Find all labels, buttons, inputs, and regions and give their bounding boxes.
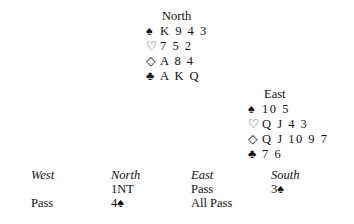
- east-spades: ♠10 5: [248, 102, 328, 117]
- north-clubs: ♣A K Q: [146, 69, 208, 84]
- bid: 3♠: [271, 182, 351, 196]
- north-hearts: ♡7 5 2: [146, 39, 208, 54]
- north-diamonds-cards: A 8 4: [160, 54, 195, 68]
- header-south: South: [271, 168, 351, 182]
- north-spades: ♠K 9 4 3: [146, 24, 208, 39]
- club-icon: ♣: [146, 69, 160, 84]
- header-north: North: [111, 168, 191, 182]
- east-clubs: ♣7 6: [248, 147, 328, 162]
- auction-row: 1NT Pass 3♠: [31, 182, 351, 196]
- bid: All Pass: [191, 196, 271, 210]
- spade-icon: ♠: [146, 24, 160, 39]
- east-diamonds: ◇Q J 10 9 7: [248, 132, 328, 147]
- auction-header: West North East South: [31, 168, 351, 182]
- east-clubs-cards: 7 6: [262, 147, 282, 161]
- north-diamonds: ◇A 8 4: [146, 54, 208, 69]
- east-hearts-cards: Q J 4 3: [262, 117, 308, 131]
- east-hand: East ♠10 5 ♡Q J 4 3 ◇Q J 10 9 7 ♣7 6: [248, 87, 328, 162]
- north-hand: North ♠K 9 4 3 ♡7 5 2 ◇A 8 4 ♣A K Q: [146, 9, 208, 84]
- bid: [271, 196, 351, 210]
- east-hearts: ♡Q J 4 3: [248, 117, 328, 132]
- north-label: North: [146, 9, 208, 24]
- bid: Pass: [191, 182, 271, 196]
- heart-icon: ♡: [146, 39, 160, 54]
- bid: 1NT: [111, 182, 191, 196]
- club-icon: ♣: [248, 147, 262, 162]
- header-west: West: [31, 168, 111, 182]
- east-spades-cards: 10 5: [262, 102, 290, 116]
- east-diamonds-cards: Q J 10 9 7: [262, 132, 328, 146]
- bid: Pass: [31, 196, 111, 210]
- auction-table: West North East South 1NT Pass 3♠ Pass 4…: [31, 168, 351, 210]
- bid: [31, 182, 111, 196]
- header-east: East: [191, 168, 271, 182]
- east-label: East: [248, 87, 328, 102]
- heart-icon: ♡: [248, 117, 262, 132]
- north-hearts-cards: 7 5 2: [160, 39, 193, 53]
- spade-icon: ♠: [248, 102, 262, 117]
- auction-row: Pass 4♠ All Pass: [31, 196, 351, 210]
- diamond-icon: ◇: [248, 132, 262, 147]
- diamond-icon: ◇: [146, 54, 160, 69]
- north-clubs-cards: A K Q: [160, 69, 200, 83]
- bid: 4♠: [111, 196, 191, 210]
- north-spades-cards: K 9 4 3: [160, 24, 208, 38]
